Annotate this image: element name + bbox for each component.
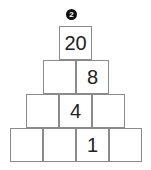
pyramid-cell[interactable] [109,128,142,162]
pyramid-cell[interactable]: 1 [76,128,109,162]
pyramid-cell[interactable] [26,94,59,128]
pyramid-cell[interactable] [43,60,76,94]
problem-number-badge: 2 [66,9,77,20]
pyramid-cell[interactable]: 4 [59,94,92,128]
pyramid-cell[interactable] [10,128,43,162]
pyramid-cell[interactable]: 8 [76,60,109,94]
pyramid-cell[interactable]: 20 [59,26,92,60]
pyramid-cell[interactable] [43,128,76,162]
pyramid-cell[interactable] [92,94,125,128]
